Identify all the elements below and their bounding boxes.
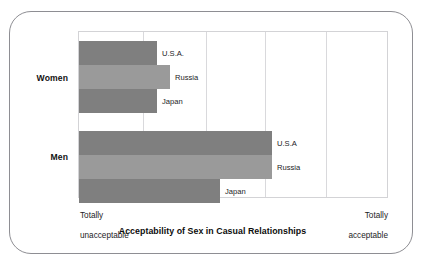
bar-label-women-usa: U.S.A. [162,50,184,58]
bar-women-russia [79,65,170,89]
bar-label-men-usa: U.S.A [277,140,297,148]
axis-label-acceptable-line1: Totally [365,211,388,220]
chart-figure: Women Men U.S.A. Russia Japan U.S.A Russ… [0,0,425,267]
bar-men-japan [79,179,220,203]
bar-men-usa [79,131,272,155]
plot-area: U.S.A. Russia Japan U.S.A Russia Japan [78,31,388,198]
bar-label-men-russia: Russia [277,164,300,172]
bar-label-men-japan: Japan [225,188,246,196]
bar-women-japan [79,89,157,113]
group-label-women: Women [8,73,68,83]
gridline [326,32,327,197]
bar-women-usa [79,41,157,65]
bar-label-women-russia: Russia [175,74,198,82]
chart-title: Acceptability of Sex in Casual Relations… [0,226,425,236]
axis-label-unacceptable-line1: Totally [80,211,103,220]
bar-men-russia [79,155,272,179]
bar-label-women-japan: Japan [162,98,183,106]
group-label-men: Men [8,152,68,162]
